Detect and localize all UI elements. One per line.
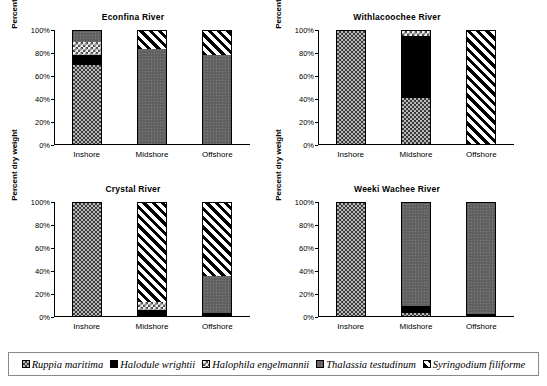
bar-segment-halophila-engelmannii[interactable]: [73, 42, 101, 54]
bar-slot-inshore: [54, 202, 119, 317]
x-axis-tick-label-offshore: Offshore: [449, 317, 514, 331]
y-axis-label: Percent dry weight: [10, 0, 19, 38]
bar-segment-halodule-wrightii[interactable]: [73, 55, 101, 65]
stacked-bar-inshore[interactable]: [72, 202, 102, 317]
chart-title: Withlacoochee River: [272, 12, 522, 22]
y-axis-tick-label: 40%: [35, 267, 50, 276]
bar-segment-syringodium-filiforme[interactable]: [138, 31, 166, 49]
y-axis-tick-label: 60%: [35, 72, 50, 81]
plot-area: 100%80%60%40%20%0%InshoreMidshoreOffshor…: [318, 202, 514, 317]
bar-segment-syringodium-filiforme[interactable]: [203, 203, 231, 276]
bar-segment-halodule-wrightii[interactable]: [402, 306, 430, 313]
legend-item-syringodium-filiforme: Syringodium filiforme: [416, 359, 525, 370]
stacked-bar-midshore[interactable]: [401, 202, 431, 317]
y-axis-tick-label: 0%: [39, 141, 50, 150]
bar-group: [54, 30, 250, 145]
y-axis-tick-label: 100%: [31, 198, 50, 207]
y-axis-tick-label: 40%: [299, 95, 314, 104]
bar-segment-thalassia-testudinum[interactable]: [402, 203, 430, 306]
species-legend: Ruppia maritimaHalodule wrightiiHalophil…: [8, 352, 539, 376]
stacked-bar-midshore[interactable]: [401, 30, 431, 145]
bar-slot-inshore: [318, 202, 383, 317]
stacked-bar-inshore[interactable]: [336, 202, 366, 317]
bar-segment-halodule-wrightii[interactable]: [467, 314, 495, 316]
legend-item-ruppia-maritima: Ruppia maritima: [22, 359, 103, 370]
bar-segment-syringodium-filiforme[interactable]: [203, 31, 231, 55]
bar-segment-halodule-wrightii[interactable]: [138, 310, 166, 316]
bar-segment-thalassia-testudinum[interactable]: [138, 49, 166, 144]
bar-slot-offshore: [185, 30, 250, 145]
x-axis-tick-label-offshore: Offshore: [449, 145, 514, 159]
y-axis-tick-label: 100%: [31, 26, 50, 35]
bar-slot-offshore: [449, 30, 514, 145]
y-axis-tick-label: 20%: [35, 290, 50, 299]
chart-grid: Econfina RiverPercent dry weight100%80%6…: [0, 0, 547, 340]
legend-item-halophila-engelmannii: Halophila engelmannii: [195, 359, 309, 370]
legend-swatch-ruppia-maritima: [22, 360, 30, 368]
y-axis-tick-label: 20%: [299, 118, 314, 127]
bar-slot-offshore: [449, 202, 514, 317]
y-axis-tick-label: 20%: [35, 118, 50, 127]
bar-segment-ruppia-maritima[interactable]: [73, 203, 101, 316]
bar-segment-ruppia-maritima[interactable]: [337, 203, 365, 316]
y-axis-tick-label: 20%: [299, 290, 314, 299]
stacked-bar-midshore[interactable]: [137, 202, 167, 317]
x-axis-tick-label-offshore: Offshore: [185, 317, 250, 331]
bar-segment-syringodium-filiforme[interactable]: [138, 203, 166, 302]
bar-segment-thalassia-testudinum[interactable]: [203, 276, 231, 312]
legend-label: Thalassia testudinum: [326, 359, 416, 370]
y-axis-tick-label: 60%: [35, 244, 50, 253]
y-axis-label: Percent dry weight: [10, 120, 19, 210]
bar-slot-midshore: [119, 202, 184, 317]
y-axis-label: Percent dry weight: [274, 120, 283, 210]
x-axis-tick-label-inshore: Inshore: [318, 317, 383, 331]
bar-segment-halophila-engelmannii[interactable]: [138, 302, 166, 310]
y-axis-tick-label: 80%: [299, 49, 314, 58]
x-axis-tick-label-midshore: Midshore: [383, 317, 448, 331]
bar-segment-ruppia-maritima[interactable]: [402, 98, 430, 144]
legend-swatch-syringodium-filiforme: [423, 360, 431, 368]
stacked-bar-offshore[interactable]: [466, 202, 496, 317]
y-axis-tick-label: 40%: [35, 95, 50, 104]
bar-segment-ruppia-maritima[interactable]: [402, 313, 430, 316]
bar-segment-ruppia-maritima[interactable]: [337, 31, 365, 144]
y-axis-tick-label: 60%: [299, 72, 314, 81]
bar-slot-midshore: [383, 30, 448, 145]
bar-segment-halodule-wrightii[interactable]: [203, 313, 231, 316]
plot-area: 100%80%60%40%20%0%InshoreMidshoreOffshor…: [318, 30, 514, 145]
bar-segment-ruppia-maritima[interactable]: [73, 65, 101, 144]
y-axis-tick-label: 80%: [299, 221, 314, 230]
x-axis-tick-label-inshore: Inshore: [54, 145, 119, 159]
bar-segment-thalassia-testudinum[interactable]: [467, 203, 495, 314]
bar-group: [318, 30, 514, 145]
bar-slot-inshore: [318, 30, 383, 145]
bar-segment-halodule-wrightii[interactable]: [402, 36, 430, 98]
y-axis-tick-label: 0%: [303, 313, 314, 322]
plot-area: 100%80%60%40%20%0%InshoreMidshoreOffshor…: [54, 202, 250, 317]
stacked-bar-offshore[interactable]: [466, 30, 496, 145]
bar-group: [318, 202, 514, 317]
bar-segment-thalassia-testudinum[interactable]: [203, 55, 231, 144]
x-axis-tick-label-offshore: Offshore: [185, 145, 250, 159]
y-axis-tick-label: 40%: [299, 267, 314, 276]
legend-swatch-halophila-engelmannii: [202, 360, 210, 368]
chart-title: Weeki Wachee River: [272, 184, 522, 194]
bar-segment-thalassia-testudinum[interactable]: [73, 31, 101, 42]
stacked-bar-midshore[interactable]: [137, 30, 167, 145]
y-axis-tick-label: 80%: [35, 49, 50, 58]
stacked-bar-offshore[interactable]: [202, 30, 232, 145]
legend-swatch-halodule-wrightii: [110, 360, 118, 368]
chart-panel-econfina: Econfina RiverPercent dry weight100%80%6…: [8, 8, 258, 178]
chart-title: Crystal River: [8, 184, 258, 194]
bar-segment-syringodium-filiforme[interactable]: [467, 31, 495, 144]
legend-swatch-thalassia-testudinum: [316, 360, 324, 368]
y-axis-tick-label: 80%: [35, 221, 50, 230]
legend-label: Syringodium filiforme: [433, 359, 525, 370]
legend-item-thalassia-testudinum: Thalassia testudinum: [309, 359, 416, 370]
y-axis-tick-label: 100%: [295, 198, 314, 207]
stacked-bar-inshore[interactable]: [336, 30, 366, 145]
x-axis-tick-label-midshore: Midshore: [119, 317, 184, 331]
legend-item-halodule-wrightii: Halodule wrightii: [103, 359, 195, 370]
stacked-bar-offshore[interactable]: [202, 202, 232, 317]
stacked-bar-inshore[interactable]: [72, 30, 102, 145]
